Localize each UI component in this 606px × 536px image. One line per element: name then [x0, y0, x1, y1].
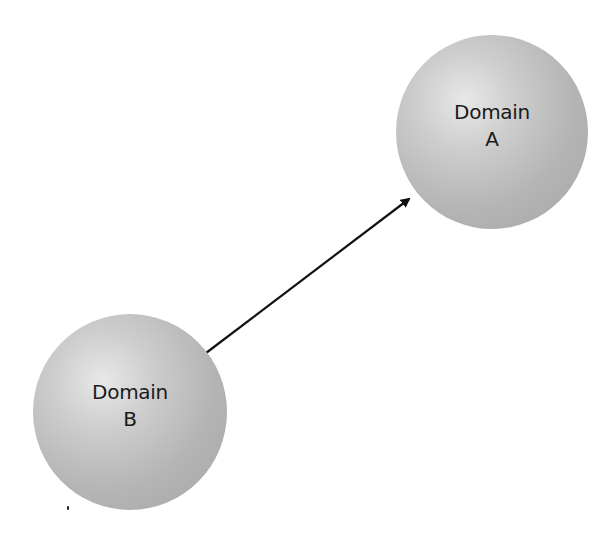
arrow-b-to-a [206, 199, 409, 353]
node-domain-b-text: Domain B [92, 379, 168, 433]
node-domain-a: Domain A [396, 35, 588, 229]
node-domain-a-line1: Domain [454, 99, 530, 126]
node-domain-b-line2: B [92, 406, 168, 433]
node-domain-b: Domain B [33, 314, 227, 510]
node-domain-b-line1: Domain [92, 379, 168, 406]
node-domain-a-text: Domain A [454, 99, 530, 153]
diagram-canvas: Domain A Domain B [0, 0, 606, 536]
scan-speck [67, 506, 69, 510]
node-domain-a-line2: A [454, 126, 530, 153]
